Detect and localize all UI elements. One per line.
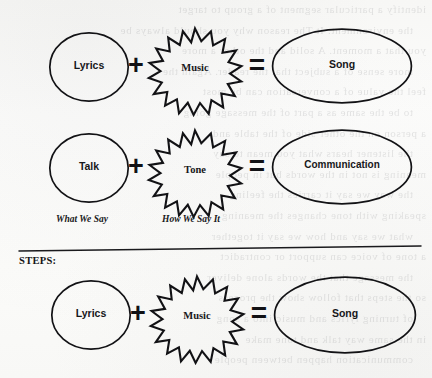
operator-plus-row3: + (125, 300, 151, 327)
circle-lyrics-label: Lyrics (48, 59, 130, 71)
operator-equals-row1: = (242, 51, 272, 79)
caption-what-we-say: What We Say (56, 214, 108, 224)
ellipse-song-steps-label: Song (273, 307, 417, 319)
ellipse-communication: Communication (271, 128, 413, 206)
circle-lyrics: Lyrics (48, 31, 130, 103)
circle-talk-label: Talk (48, 160, 130, 172)
ellipse-song: Song (271, 27, 413, 105)
starburst-music-steps-label: Music (150, 310, 244, 321)
scanned-page: identify a particular segment of a group… (0, 0, 432, 378)
circle-talk: Talk (48, 132, 130, 204)
operator-equals-row2: = (242, 152, 272, 180)
equation-row-steps-song: Lyrics + Music = Song (0, 272, 432, 378)
ellipse-song-steps: Song (273, 275, 417, 355)
starburst-tone: Tone (148, 127, 242, 217)
starburst-tone-label: Tone (148, 164, 242, 175)
caption-how-we-say-it: How We Say It (162, 214, 220, 224)
equation-row-communication: Talk + Tone = Communication What We Say … (0, 127, 432, 245)
horizontal-divider (0, 238, 432, 260)
operator-equals-row3: = (244, 299, 274, 327)
circle-lyrics-steps-label: Lyrics (50, 307, 132, 319)
starburst-music: Music (148, 25, 242, 115)
circle-lyrics-steps: Lyrics (50, 279, 132, 351)
ellipse-communication-label: Communication (271, 159, 413, 170)
operator-plus-row2: + (123, 153, 149, 180)
ellipse-song-label: Song (271, 58, 413, 70)
equation-row-song: Lyrics + Music = Song (0, 0, 432, 120)
operator-plus-row1: + (123, 52, 149, 79)
starburst-music-steps: Music (150, 273, 244, 363)
steps-heading: STEPS: (19, 255, 56, 266)
starburst-music-label: Music (148, 62, 242, 73)
